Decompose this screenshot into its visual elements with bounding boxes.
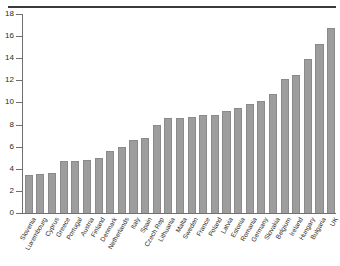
bar <box>211 115 219 213</box>
bar <box>315 44 323 213</box>
x-axis-label: UK <box>328 216 339 227</box>
bar <box>71 161 79 214</box>
bar <box>176 118 184 213</box>
y-axis-tick-label: 14 <box>5 53 14 62</box>
bar <box>118 147 126 213</box>
bar <box>48 173 56 213</box>
y-axis-tick-label: 0 <box>10 208 14 217</box>
bar <box>141 138 149 213</box>
bar <box>292 75 300 213</box>
bar <box>304 59 312 213</box>
bar <box>234 108 242 213</box>
x-axis-labels: SloveniaLuxembourgCyprusGreecePortugalAu… <box>22 214 340 266</box>
y-axis-tick-label: 18 <box>5 9 14 18</box>
bar <box>257 101 265 213</box>
y-axis-tick-label: 10 <box>5 97 14 106</box>
bar <box>83 160 91 213</box>
bar <box>188 117 196 213</box>
header-rule <box>8 6 336 8</box>
bar <box>199 115 207 213</box>
bar-chart-figure: 024681012141618 SloveniaLuxembourgCyprus… <box>0 0 340 266</box>
bar <box>95 158 103 213</box>
bar <box>222 111 230 213</box>
bar <box>106 151 114 213</box>
y-axis-tick-label: 8 <box>10 120 14 129</box>
bar <box>164 118 172 213</box>
bar <box>60 161 68 213</box>
y-axis-tick-label: 16 <box>5 31 14 40</box>
bar <box>281 79 289 213</box>
bar-series <box>22 14 340 213</box>
y-axis-tick-label: 2 <box>10 186 14 195</box>
bar <box>25 175 33 213</box>
bar <box>269 94 277 213</box>
bar <box>327 28 335 213</box>
bar <box>246 104 254 213</box>
bar <box>153 125 161 213</box>
y-axis-tick-label: 12 <box>5 75 14 84</box>
bar <box>129 140 137 213</box>
bar <box>36 174 44 213</box>
y-axis-tick-label: 6 <box>10 142 14 151</box>
y-axis-tick-label: 4 <box>10 164 14 173</box>
